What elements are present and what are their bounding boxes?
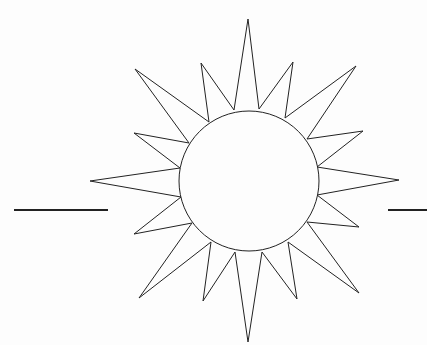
sun-disc [179, 111, 319, 251]
sun-rays [90, 19, 399, 342]
sun-ray-lower-left-outer [139, 223, 211, 298]
sun-ray-lower-left-inner [203, 242, 235, 301]
sun-ray-right [317, 167, 399, 195]
sun-ray-upper-right-outer [285, 66, 356, 139]
sun-ray-right-upper [307, 131, 363, 167]
sun-ray-left-upper [134, 133, 189, 168]
sun-illustration [0, 0, 427, 345]
sun-ray-right-lower [307, 195, 359, 227]
sun-ray-bottom [235, 252, 262, 342]
sun-ray-top [234, 19, 259, 110]
sun-ray-upper-left-outer [135, 69, 209, 143]
sun-drawing [0, 0, 427, 345]
sun-ray-left-lower [134, 197, 192, 234]
sun-ray-lower-right-outer [288, 222, 359, 293]
sun-ray-lower-right-inner [262, 242, 297, 299]
sun-ray-upper-left-inner [201, 63, 234, 122]
sun-ray-upper-right-inner [259, 62, 293, 118]
sun-ray-left [90, 168, 181, 197]
